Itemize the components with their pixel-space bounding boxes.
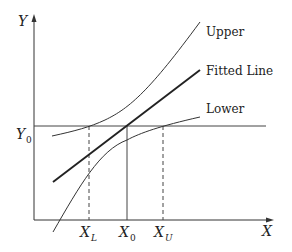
x0-label: X 0 [118, 224, 136, 243]
y-axis-label: Y [18, 13, 29, 29]
svg-text:0: 0 [130, 233, 136, 243]
svg-text:L: L [90, 233, 97, 243]
y0-label: Y 0 [16, 126, 32, 145]
fitted-line-label: Fitted Line [206, 64, 273, 78]
y-axis-arrow [32, 14, 37, 22]
x-axis-arrow [266, 218, 274, 223]
upper-curve [52, 22, 200, 136]
x-axis-label: X [261, 223, 273, 239]
svg-text:X: X [118, 224, 130, 240]
svg-text:X: X [153, 224, 165, 240]
svg-text:X: X [79, 224, 91, 240]
lower-label: Lower [206, 102, 245, 116]
svg-text:0: 0 [26, 135, 32, 145]
diagram-canvas: Y X Upper Fitted Line Lower Y 0 X L X 0 … [0, 0, 292, 252]
xu-label: X U [153, 224, 173, 243]
upper-label: Upper [206, 25, 245, 39]
xl-label: X L [79, 224, 97, 243]
svg-text:U: U [165, 233, 173, 243]
